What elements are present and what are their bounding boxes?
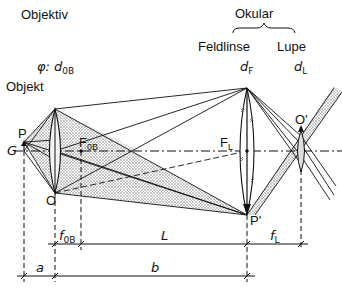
eyepiece-diameter: dL [294,60,307,76]
point-P-prime: P' [250,214,261,227]
eyepiece-label: Okular [235,7,273,20]
field-lens-diameter: dF [240,60,253,76]
point-G: G [7,144,17,157]
dim-b: b [151,261,159,274]
focal-point-L [245,149,249,153]
point-F-ob: F0B [79,136,98,152]
okular-brace [233,23,295,33]
dim-f-L: fL [270,229,280,245]
objective-diameter: φ: d0B [37,60,74,76]
magnifier-label: Lupe [277,40,306,53]
dim-L: L [161,229,168,242]
point-F-L: FL [220,136,233,152]
point-O: O [46,194,56,207]
object-label: Objekt [6,80,44,93]
point-O-prime: O' [295,113,308,126]
dim-a: a [36,261,44,274]
dimension-lines [17,241,308,279]
point-P: P [18,127,27,140]
objective-label: Objektiv [21,8,68,21]
field-lens-label: Feldlinse [198,40,250,53]
dim-f-ob: f0B [59,229,75,245]
